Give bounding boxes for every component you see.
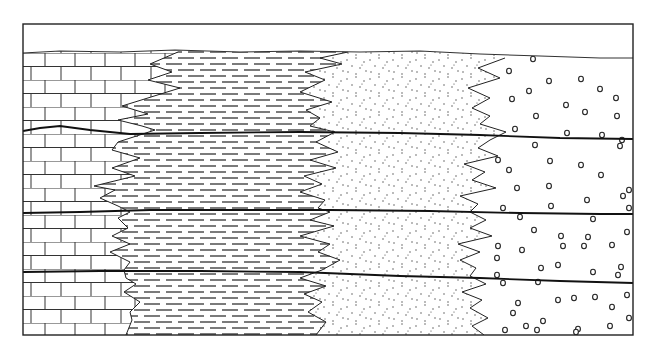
pebble — [547, 183, 552, 188]
pebble — [619, 264, 624, 269]
pebble — [516, 300, 521, 305]
pebble — [541, 318, 546, 323]
pebble — [510, 96, 515, 101]
pebble — [534, 113, 539, 118]
pebble — [515, 185, 520, 190]
pebble — [627, 315, 632, 320]
pebble — [556, 262, 561, 267]
pebble — [610, 304, 615, 309]
pebble — [598, 86, 603, 91]
pebble — [532, 227, 537, 232]
pebble — [593, 294, 598, 299]
pebble — [591, 269, 596, 274]
pebble — [518, 214, 523, 219]
facies-cross-section-diagram — [0, 0, 657, 355]
pebble — [608, 323, 613, 328]
pebble — [513, 126, 518, 131]
pebble — [549, 203, 554, 208]
pebble — [556, 297, 561, 302]
pebble — [531, 56, 536, 61]
pebble — [511, 310, 516, 315]
pebble — [579, 162, 584, 167]
pebble — [621, 193, 626, 198]
pebble — [572, 295, 577, 300]
pebble — [524, 323, 529, 328]
pebble — [520, 247, 525, 252]
pebble — [565, 130, 570, 135]
pebble — [527, 88, 532, 93]
pebble — [586, 234, 591, 239]
pebble — [591, 216, 596, 221]
pebble — [627, 187, 632, 192]
pebble — [615, 113, 620, 118]
pebble — [501, 280, 506, 285]
pebble — [561, 243, 566, 248]
pebble — [579, 76, 584, 81]
pebble — [535, 327, 540, 332]
pebble — [627, 205, 632, 210]
pebble — [507, 167, 512, 172]
pebble — [503, 327, 508, 332]
pebble — [618, 143, 623, 148]
pebble — [495, 272, 500, 277]
pebble — [625, 292, 630, 297]
pebble — [548, 158, 553, 163]
pebble — [496, 243, 501, 248]
pebble — [599, 172, 604, 177]
pebble — [582, 243, 587, 248]
pebble — [600, 132, 605, 137]
pebble — [559, 233, 564, 238]
pebble — [625, 229, 630, 234]
pebble — [610, 242, 615, 247]
pebble — [614, 95, 619, 100]
pebble — [539, 265, 544, 270]
pebble — [533, 142, 538, 147]
pebble — [501, 205, 506, 210]
pebble — [491, 341, 496, 346]
pebble — [564, 102, 569, 107]
pebble — [547, 78, 552, 83]
pebble — [585, 197, 590, 202]
pebble — [574, 329, 579, 334]
pebble — [495, 255, 500, 260]
pebble — [507, 68, 512, 73]
pebble — [496, 157, 501, 162]
pebble — [583, 109, 588, 114]
pebble — [616, 272, 621, 277]
